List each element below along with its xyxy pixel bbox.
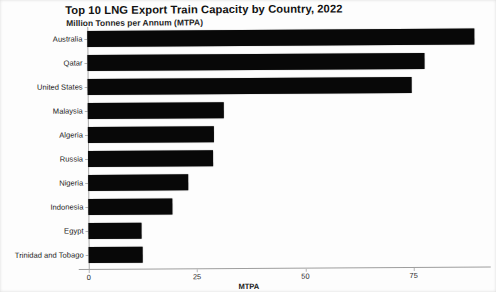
category-label: Malaysia bbox=[53, 107, 83, 116]
x-axis-tick-label: 25 bbox=[193, 272, 201, 281]
x-axis-title: MTPA bbox=[1, 280, 496, 292]
category-label: Algeria bbox=[59, 131, 83, 140]
bar bbox=[88, 77, 412, 95]
bar-row: Russia bbox=[88, 149, 490, 167]
bar bbox=[88, 223, 141, 239]
bar bbox=[88, 174, 188, 191]
bar-row: Qatar bbox=[87, 53, 489, 71]
bar bbox=[87, 29, 474, 47]
bar bbox=[88, 150, 213, 167]
bar-row: Nigeria bbox=[88, 173, 490, 191]
bar-row: Trinidad and Tobago bbox=[89, 245, 491, 263]
bar bbox=[88, 198, 172, 215]
category-label: Trinidad and Tobago bbox=[15, 251, 84, 260]
bar bbox=[88, 126, 215, 143]
category-label: Qatar bbox=[63, 59, 82, 68]
bar bbox=[89, 247, 143, 263]
x-axis-tick-label: 50 bbox=[301, 272, 309, 281]
x-axis-tick-label: 0 bbox=[87, 273, 91, 282]
bar-row: United States bbox=[88, 77, 490, 95]
category-label: Egypt bbox=[64, 227, 83, 236]
bar-row: Australia bbox=[87, 29, 489, 47]
category-label: Indonesia bbox=[50, 203, 83, 212]
chart-title: Top 10 LNG Export Train Capacity by Coun… bbox=[65, 2, 342, 16]
bar-row: Algeria bbox=[88, 125, 490, 143]
scanned-page-background: Top 10 LNG Export Train Capacity by Coun… bbox=[0, 0, 496, 292]
bar bbox=[88, 102, 224, 119]
bar-chart: Top 10 LNG Export Train Capacity by Coun… bbox=[0, 0, 496, 292]
x-axis-tick-label: 75 bbox=[410, 271, 418, 280]
bar-row: Egypt bbox=[88, 221, 490, 239]
bar-row: Indonesia bbox=[88, 197, 490, 215]
category-label: United States bbox=[37, 83, 83, 92]
bar bbox=[87, 53, 424, 71]
bar-row: Malaysia bbox=[88, 101, 490, 119]
category-label: Australia bbox=[53, 35, 83, 44]
category-label: Nigeria bbox=[59, 179, 83, 188]
plot-area: AustraliaQatarUnited StatesMalaysiaAlger… bbox=[87, 27, 490, 269]
category-label: Russia bbox=[60, 155, 83, 164]
